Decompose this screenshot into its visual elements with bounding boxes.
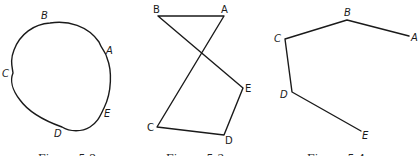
point-label-d: D xyxy=(225,135,233,146)
point-label-b: B xyxy=(41,10,48,21)
point-label-a: A xyxy=(105,45,113,56)
point-label-e: E xyxy=(245,83,251,94)
figure-caption: Figure 5-4 xyxy=(307,152,365,156)
point-label-a: A xyxy=(410,32,418,43)
figure-5-3: B A E C D Figure 5-3 xyxy=(147,4,251,156)
figure-caption: Figure 5-2 xyxy=(38,152,96,156)
figures-canvas: B A C E D Figure 5-2 B A E C D Figure 5-… xyxy=(0,0,420,156)
point-label-c: C xyxy=(2,68,9,79)
point-label-e: E xyxy=(362,130,369,141)
closed-curve xyxy=(12,22,111,130)
point-label-c: C xyxy=(147,122,154,133)
open-polyline xyxy=(285,20,409,131)
point-label-c: C xyxy=(274,33,281,44)
point-label-b: B xyxy=(153,4,160,15)
point-label-a: A xyxy=(221,4,228,15)
figure-caption: Figure 5-3 xyxy=(166,152,224,156)
point-label-d: D xyxy=(280,89,288,100)
point-label-b: B xyxy=(344,7,351,18)
figure-5-2: B A C E D Figure 5-2 xyxy=(2,10,113,156)
point-label-d: D xyxy=(54,128,62,139)
polygon-outline xyxy=(157,16,243,135)
figure-5-4: B A C D E Figure 5-4 xyxy=(274,7,418,156)
point-label-e: E xyxy=(104,108,111,119)
